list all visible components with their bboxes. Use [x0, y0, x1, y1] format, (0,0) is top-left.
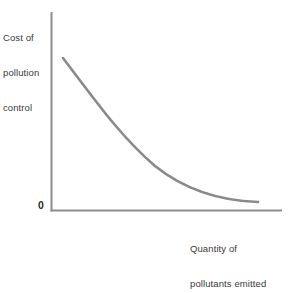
- y-axis-label-line-2: pollution: [3, 67, 39, 79]
- x-axis-label-line-2: pollutants emitted: [190, 278, 266, 290]
- origin-label: 0: [38, 199, 44, 211]
- x-axis-label: Quantity of pollutants emitted: [190, 219, 266, 293]
- x-axis-label-line-1: Quantity of: [190, 243, 266, 255]
- y-axis-label-line-1: Cost of: [3, 32, 39, 44]
- y-axis-label: Cost of pollution control: [3, 8, 39, 138]
- y-axis-label-line-3: control: [3, 102, 39, 114]
